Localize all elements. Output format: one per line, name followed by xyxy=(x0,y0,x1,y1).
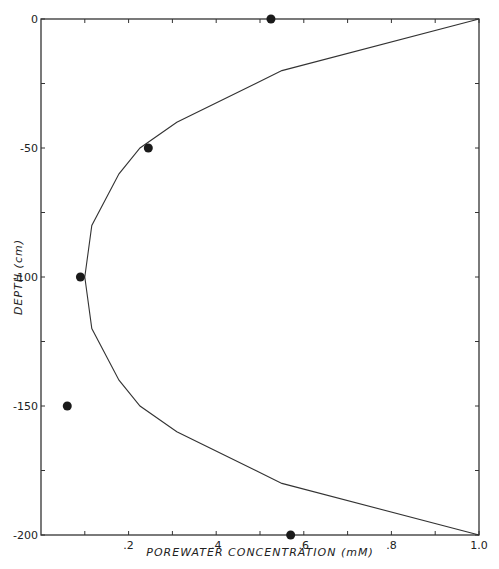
plot-frame xyxy=(41,19,479,535)
depth-profile-chart: .2.4.6.81.0 0-50-100-150-200 POREWATER C… xyxy=(0,0,499,569)
y-tick-label: 0 xyxy=(31,13,38,26)
y-tick-label: -200 xyxy=(13,529,38,542)
x-axis-ticks: .2.4.6.81.0 xyxy=(85,19,488,552)
y-tick-label: -50 xyxy=(20,142,38,155)
measured-point xyxy=(144,144,153,153)
model-profile-line xyxy=(85,19,479,535)
measured-point xyxy=(76,273,85,282)
x-axis-title: POREWATER CONCENTRATION (mM) xyxy=(146,546,373,559)
measured-point xyxy=(266,15,275,24)
x-tick-label: 1.0 xyxy=(470,539,488,552)
y-axis-title: DEPTH (cm) xyxy=(12,239,25,315)
x-tick-label: .8 xyxy=(386,539,397,552)
plot-border xyxy=(41,19,479,535)
measured-point xyxy=(286,531,295,540)
data-series xyxy=(63,15,479,540)
x-tick-label: .2 xyxy=(123,539,134,552)
measured-point xyxy=(63,402,72,411)
y-tick-label: -150 xyxy=(13,400,38,413)
